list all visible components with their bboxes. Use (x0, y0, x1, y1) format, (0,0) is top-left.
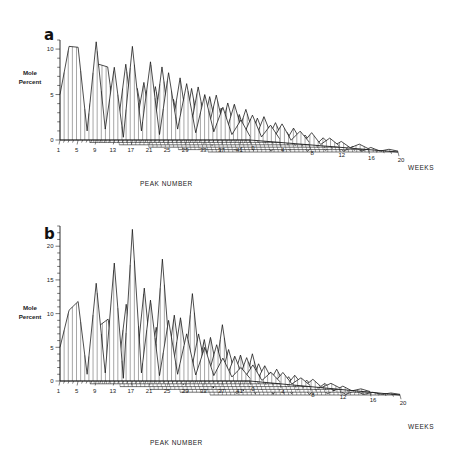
panel-b-plot: 051015201591317212529333741048121620 (0, 205, 456, 471)
x-axis-tick-label: 29 (182, 388, 189, 394)
z-axis-tick (400, 395, 401, 399)
x-axis-tick-label: 1 (57, 388, 61, 394)
z-axis-tick (398, 152, 399, 156)
y-axis-tick-label: 5 (50, 345, 54, 351)
y-axis-tick-label: 0 (50, 137, 54, 143)
panel-a: a Mole Percent PEAK NUMBER WEEKS 0510159… (0, 0, 456, 210)
x-axis-tick-label: 41 (236, 147, 243, 153)
x-axis-tick-label: 37 (218, 388, 225, 394)
x-axis-tick-label: 5 (75, 388, 79, 394)
x-axis-tick-label: 21 (146, 388, 153, 394)
x-axis-tick-label: 33 (200, 388, 207, 394)
x-axis-tick-label: 17 (128, 388, 135, 394)
z-axis-tick-label: 16 (370, 397, 377, 403)
panel-a-plot: 05101591317212529333741048121620 (0, 0, 456, 210)
y-axis-tick-label: 15 (47, 277, 54, 283)
x-axis-tick-label: 13 (109, 388, 116, 394)
x-axis-tick (59, 140, 60, 145)
figure-container: a Mole Percent PEAK NUMBER WEEKS 0510159… (0, 0, 456, 471)
x-axis-tick (77, 140, 78, 145)
panel-b: b Mole Percent PEAK NUMBER WEEKS 0510152… (0, 205, 456, 471)
x-axis-tick-label: 13 (109, 147, 116, 153)
x-axis-tick (77, 381, 78, 386)
x-axis-tick-label: 9 (93, 147, 97, 153)
y-axis-tick-label: 0 (50, 378, 54, 384)
x-axis-tick-label: 29 (182, 147, 189, 153)
x-axis-tick-label: 37 (218, 147, 225, 153)
y-axis-tick-label: 10 (47, 46, 54, 52)
z-axis-tick-label: 12 (340, 394, 347, 400)
x-axis-tick-label: 21 (146, 147, 153, 153)
x-axis-tick-label: 1 (57, 147, 61, 153)
x-axis-tick-label: 25 (164, 147, 171, 153)
x-axis-tick-label: 5 (75, 147, 79, 153)
y-axis-tick-label: 5 (50, 92, 54, 98)
x-axis-tick-label: 33 (200, 147, 207, 153)
z-axis-tick-label: 20 (398, 157, 405, 163)
z-axis-tick-label: 12 (338, 152, 345, 158)
z-axis-tick-label: 16 (368, 155, 375, 161)
y-axis-tick-label: 20 (47, 243, 54, 249)
x-axis-tick-label: 25 (164, 388, 171, 394)
x-axis-tick-label: 41 (236, 388, 243, 394)
z-axis-tick-label: 20 (400, 400, 407, 406)
x-axis-tick-label: 17 (128, 147, 135, 153)
x-axis-tick (59, 381, 60, 386)
x-axis-tick-label: 9 (93, 388, 97, 394)
y-axis-tick-label: 10 (47, 311, 54, 317)
